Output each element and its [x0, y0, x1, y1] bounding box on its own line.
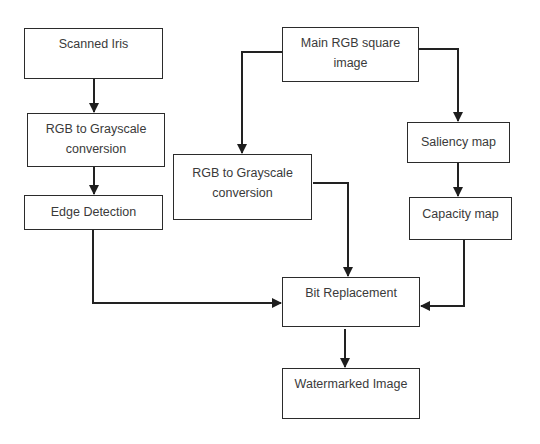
node-capacity-map: Capacity map [409, 197, 512, 240]
flowchart-canvas: Scanned Iris RGB to Grayscale conversion… [0, 0, 540, 444]
node-main-rgb: Main RGB square image [282, 27, 419, 82]
arrow-main-to-saliency [419, 49, 458, 121]
node-label: Scanned Iris [25, 34, 162, 54]
node-saliency-map: Saliency map [407, 122, 510, 163]
node-label: Saliency map [408, 132, 509, 152]
node-edge-detection: Edge Detection [24, 195, 163, 230]
arrow-gray-mid-to-bit [313, 183, 348, 276]
arrow-main-to-gray-mid [242, 52, 282, 153]
node-label-line1: Main RGB square [283, 33, 418, 53]
node-label-line2: image [283, 53, 418, 73]
node-rgb-gray-mid: RGB to Grayscale conversion [173, 154, 312, 220]
node-bit-replacement: Bit Replacement [282, 277, 420, 327]
node-label: Watermarked Image [283, 374, 419, 394]
node-scanned-iris: Scanned Iris [24, 28, 163, 79]
node-watermarked-image: Watermarked Image [282, 368, 420, 419]
node-label: Edge Detection [25, 202, 162, 222]
node-label-line1: RGB to Grayscale [174, 163, 311, 183]
node-label-line2: conversion [28, 139, 164, 159]
arrow-capacity-to-bit [421, 240, 464, 306]
node-label: Capacity map [410, 204, 511, 224]
node-label: Bit Replacement [283, 283, 419, 303]
node-label-line2: conversion [174, 183, 311, 203]
arrow-edge-to-bit [93, 230, 281, 303]
node-label-line1: RGB to Grayscale [28, 119, 164, 139]
node-rgb-gray-left: RGB to Grayscale conversion [27, 113, 165, 167]
